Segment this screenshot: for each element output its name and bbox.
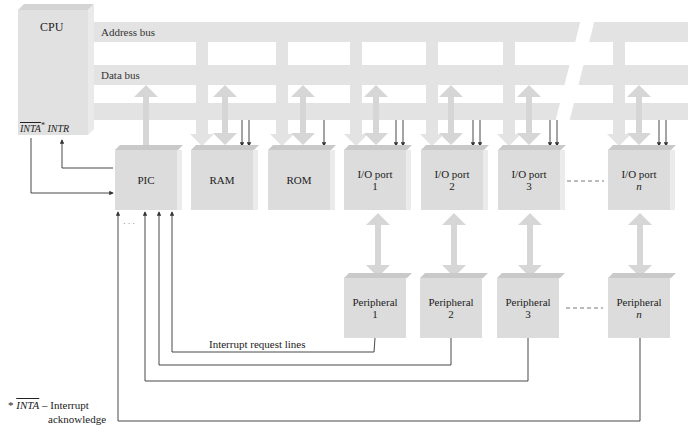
io2-block: I/O port2 <box>421 150 483 210</box>
ion-side <box>670 150 675 210</box>
diagram-lines <box>0 0 688 436</box>
interrupt-request-lines-label: Interrupt request lines <box>209 338 306 350</box>
io1-block: I/O port1 <box>344 150 406 210</box>
ram-block: RAM <box>191 150 253 210</box>
ellipsis: · · · <box>123 219 135 228</box>
rom-block: ROM <box>268 150 330 210</box>
footnote: * INTA – Interrupt acknowledge <box>8 398 106 426</box>
rom-side <box>330 150 335 210</box>
io1-side <box>406 150 411 210</box>
peripheral-3-block: Peripheral3 <box>497 278 559 338</box>
ram-side <box>253 150 258 210</box>
peripheral-2-block: Peripheral2 <box>420 278 482 338</box>
pic-block: PIC <box>115 150 177 210</box>
peripheral-1-block: Peripheral1 <box>344 278 406 338</box>
ion-block: I/O portn <box>608 150 670 210</box>
pic-side <box>177 150 182 210</box>
io3-block: I/O port3 <box>498 150 560 210</box>
io3-side <box>560 150 565 210</box>
io2-side <box>483 150 488 210</box>
peripheral-n-block: Peripheraln <box>608 278 670 338</box>
